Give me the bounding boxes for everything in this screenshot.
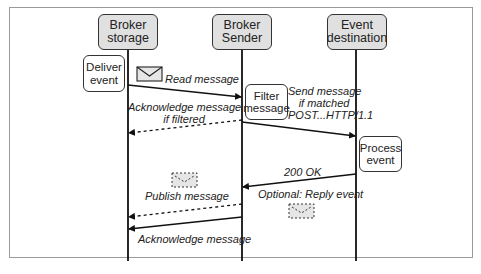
participant-broker-sender: Broker Sender xyxy=(212,14,272,50)
activity-label: event xyxy=(360,154,402,167)
label-200-ok: 200 OK xyxy=(284,166,321,178)
label-ack-filtered: Acknowledge message if filtered xyxy=(128,101,240,125)
arrow-publish-message xyxy=(129,204,242,217)
envelope-icon xyxy=(137,67,162,81)
arrow-send-message xyxy=(242,122,355,136)
activity-process-event: Process event xyxy=(359,136,402,172)
activity-deliver-event: Deliver event xyxy=(83,55,125,92)
dashed-envelope-icon xyxy=(172,173,197,187)
activity-filter-message: Filter message xyxy=(245,84,288,120)
participant-label: Sender xyxy=(222,32,262,45)
activity-label: Process xyxy=(360,142,402,155)
arrow-read-message xyxy=(128,85,241,97)
activity-label: Filter xyxy=(243,90,290,103)
label-acknowledge-message: Acknowledge message xyxy=(138,233,251,245)
activity-label: Deliver xyxy=(86,61,122,74)
label-read-message: Read message xyxy=(165,73,239,85)
participant-label: storage xyxy=(107,32,149,45)
label-send-message: Send message if matched POST...HTTP/1.1 xyxy=(288,85,360,121)
participant-label: destination xyxy=(327,32,387,45)
dashed-envelope-icon xyxy=(289,204,314,218)
label-optional-reply-event: Optional: Reply event xyxy=(258,188,363,200)
participant-broker-storage: Broker storage xyxy=(98,14,158,50)
participant-event-destination: Event destination xyxy=(327,14,387,50)
activity-label: event xyxy=(86,74,122,87)
arrow-acknowledge-message xyxy=(129,217,242,229)
activity-label: message xyxy=(243,102,290,115)
label-publish-message: Publish message xyxy=(145,190,229,202)
